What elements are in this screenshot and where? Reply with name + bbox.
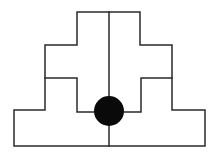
center-dot	[94, 96, 124, 126]
left-inner-step	[45, 78, 94, 112]
right-inner-step	[124, 78, 172, 112]
pyramid-diagram	[0, 0, 220, 156]
